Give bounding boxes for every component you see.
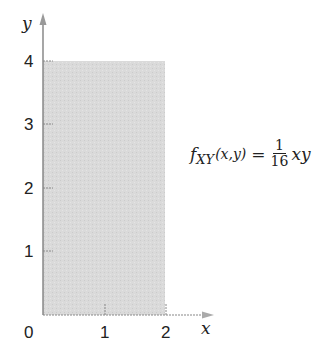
formula-args: (x,y) <box>215 146 246 162</box>
formula-fraction: 1 16 <box>271 138 289 170</box>
y-tick-label-1: 1 <box>24 243 33 260</box>
y-tick-label-3: 3 <box>24 116 33 133</box>
fraction-numerator: 1 <box>273 138 286 154</box>
formula-equals: = <box>251 144 265 164</box>
y-axis-arrow-icon <box>40 13 47 25</box>
origin-label: 0 <box>24 324 33 341</box>
y-tick-label-4: 4 <box>24 53 33 70</box>
y-axis-label: y <box>22 15 32 32</box>
x-tick-label-1: 1 <box>100 324 109 341</box>
formula-subscript: XY <box>196 152 214 167</box>
pdf-formula: f XY (x,y) = 1 16 xy <box>190 138 311 170</box>
x-axis-label: x <box>201 320 211 337</box>
fraction-denominator: 16 <box>271 154 289 169</box>
formula-tail: xy <box>291 144 310 164</box>
y-tick-label-2: 2 <box>24 180 33 197</box>
shaded-support-region <box>43 61 165 315</box>
x-tick-label-2: 2 <box>161 324 170 341</box>
